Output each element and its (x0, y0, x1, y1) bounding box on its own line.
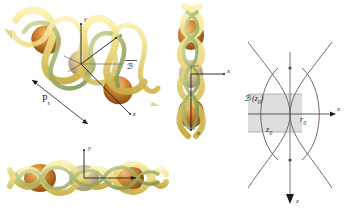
figure-canvas: y x z ℬ Ps (0, 0, 344, 210)
axis-label-x-geometry: x (337, 106, 340, 113)
axis-label-x-vertical: x (227, 68, 230, 75)
vector-overbar-icon (125, 60, 137, 61)
axis-label-z-horizontal: z (140, 173, 143, 180)
amplitude-vector-symbol: ℬ (126, 62, 132, 71)
geometry-graphic (236, 38, 344, 210)
amplitude-of-z0-label: ℬ (z0) (244, 95, 263, 105)
vertical-helix-graphic (158, 2, 238, 147)
y-axis-tip-horizontal (83, 149, 85, 151)
amplitude-of-z0-suffix: ) (261, 94, 264, 103)
amplitude-vector-label: ℬ (126, 62, 132, 71)
axis-label-x-oblique: x (119, 32, 122, 39)
height-z0-subscript: 0 (269, 130, 272, 136)
pitch-label: Ps (42, 94, 50, 106)
panel-horizontal-3d-helix: y z (8, 142, 168, 208)
z-axis-tip-oblique (129, 113, 131, 115)
axis-label-z-vertical: z (197, 130, 200, 137)
radius-r0-label: r0 (300, 116, 306, 126)
oblique-helix-graphic (2, 2, 162, 127)
axis-label-y-oblique: y (84, 16, 87, 23)
x-axis-tip-oblique (115, 37, 117, 39)
axis-label-y-horizontal: y (88, 145, 91, 152)
radius-r0-subscript: 0 (303, 120, 306, 126)
panel-oblique-3d-helix: y x z ℬ Ps (2, 2, 162, 127)
x-axis-tip-vertical (223, 73, 225, 75)
axis-label-z-geometry: z (296, 198, 299, 205)
amplitude-of-z0-text: ℬ (z (244, 94, 258, 103)
panel-vertical-3d-helix: x z (158, 2, 238, 147)
z-axis-tip-vertical (190, 129, 192, 131)
pitch-subscript: s (48, 100, 50, 106)
panel-cross-section-geometry: ℬ (z0) r0 z0 x z (236, 38, 344, 210)
axis-label-z-oblique: z (133, 111, 136, 118)
height-z0-label: z0 (266, 126, 272, 136)
y-axis-tip-oblique (80, 23, 82, 25)
